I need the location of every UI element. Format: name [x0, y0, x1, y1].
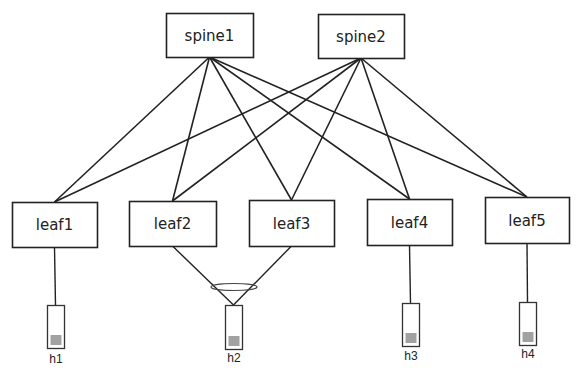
link-spine1-leaf4 — [210, 57, 410, 199]
host-label: h2 — [227, 351, 241, 365]
link-leaf1-h1 — [55, 247, 56, 305]
network-topology-diagram: spine1spine2leaf1leaf2leaf3leaf4leaf5h1h… — [0, 0, 578, 377]
server-icon — [48, 306, 65, 349]
host-label: h4 — [521, 347, 535, 361]
spine-node-spine1[interactable]: spine1 — [167, 14, 254, 58]
link-leaf3-h2 — [234, 246, 292, 305]
leaf-label: leaf2 — [154, 215, 191, 233]
leaf-node-leaf4[interactable]: leaf4 — [368, 200, 453, 246]
host-node-h3[interactable]: h3 — [403, 304, 420, 364]
leaf-label: leaf4 — [391, 214, 428, 232]
host-node-h4[interactable]: h4 — [520, 303, 537, 362]
server-icon — [403, 304, 420, 347]
link-spine2-leaf2 — [173, 58, 362, 201]
host-node-h1[interactable]: h1 — [48, 306, 65, 367]
leaf-node-leaf2[interactable]: leaf2 — [130, 202, 217, 247]
link-leaf4-h3 — [410, 245, 411, 303]
spine-node-spine2[interactable]: spine2 — [319, 15, 405, 59]
bond-layer — [211, 284, 257, 291]
link-spine2-leaf1 — [55, 58, 362, 202]
leaf-node-leaf1[interactable]: leaf1 — [13, 203, 98, 248]
link-spine2-leaf3 — [292, 58, 362, 200]
host-label: h1 — [49, 352, 63, 366]
nodes-layer: spine1spine2leaf1leaf2leaf3leaf4leaf5h1h… — [13, 14, 570, 367]
leaf-node-leaf5[interactable]: leaf5 — [486, 198, 570, 244]
link-spine1-leaf3 — [210, 57, 292, 200]
link-leaf5-h4 — [527, 243, 528, 302]
link-spine1-leaf2 — [173, 57, 210, 201]
spine-label: spine2 — [336, 28, 386, 46]
link-spine2-leaf5 — [361, 58, 527, 197]
host-label: h3 — [404, 349, 418, 363]
leaf-node-leaf3[interactable]: leaf3 — [250, 201, 335, 247]
leaf-label: leaf5 — [508, 212, 545, 230]
leaf-label: leaf1 — [36, 216, 73, 234]
spine-label: spine1 — [185, 27, 235, 45]
bond-ellipse-icon — [211, 284, 257, 291]
link-leaf2-h2 — [173, 246, 234, 305]
host-node-h2[interactable]: h2 — [226, 306, 243, 366]
server-icon — [226, 306, 243, 350]
leaf-label: leaf3 — [273, 215, 310, 233]
server-icon — [520, 303, 537, 346]
link-spine1-leaf1 — [55, 57, 210, 202]
links-layer — [55, 57, 528, 305]
